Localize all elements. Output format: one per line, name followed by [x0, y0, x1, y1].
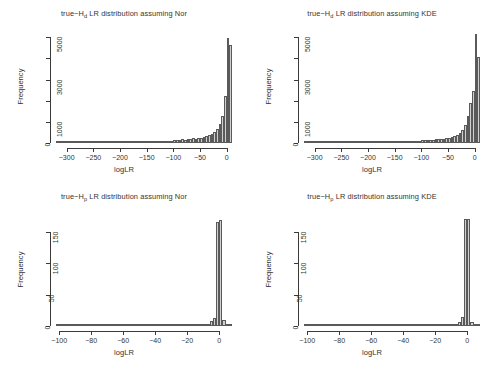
y-axis-tick-label: 0: [44, 326, 51, 330]
x-axis-tick-label: 0: [452, 337, 482, 344]
x-axis-tick: [315, 148, 316, 152]
x-axis-tick-label: −20: [172, 337, 202, 344]
x-axis-tick: [467, 331, 468, 335]
y-axis-tick-label: 50: [48, 294, 55, 302]
y-axis-line: [298, 37, 299, 143]
x-axis-tick-label: −50: [433, 154, 463, 161]
panel-title: true−Hp LR distribution assuming Nor: [0, 192, 248, 201]
y-axis-tick-label: 100: [300, 263, 307, 275]
y-axis-tick: [294, 122, 298, 123]
x-axis-tick: [403, 331, 404, 335]
y-axis-tick: [294, 232, 298, 233]
x-axis-tick-label: −100: [44, 337, 74, 344]
panel-true-hd-kde: true−Hd LR distribution assuming KDE 010…: [248, 0, 496, 182]
y-axis-tick-label: 3000: [304, 79, 311, 95]
x-axis-tick: [120, 148, 121, 152]
x-axis-tick-label: 0: [204, 337, 234, 344]
y-axis-title: Frequency: [264, 225, 273, 315]
x-axis-tick-label: −100: [292, 337, 322, 344]
x-axis-tick-label: 0: [460, 154, 490, 161]
histogram-bar: [229, 45, 232, 143]
histogram-bar: [477, 57, 480, 143]
x-axis-tick-label: −300: [52, 154, 82, 161]
panel-title-suffix: LR distribution assuming KDE: [334, 9, 437, 18]
x-axis-tick: [219, 331, 220, 335]
x-axis-tick: [435, 331, 436, 335]
x-axis-tick-label: 0: [212, 154, 242, 161]
x-axis-tick: [341, 148, 342, 152]
y-axis-tick: [46, 122, 50, 123]
histogram-bar: [219, 220, 222, 326]
y-axis-tick-label: 150: [300, 231, 307, 243]
y-axis-title: Frequency: [16, 42, 25, 132]
x-axis-tick: [123, 331, 124, 335]
y-axis-tick: [294, 80, 298, 81]
x-axis-tick: [59, 331, 60, 335]
histogram-figure: true−Hd LR distribution assuming Nor 010…: [0, 0, 496, 365]
y-axis-line: [50, 232, 51, 326]
x-axis-title: logLR: [0, 165, 248, 174]
x-axis-tick: [339, 331, 340, 335]
y-axis-tick-label: 150: [52, 231, 59, 243]
x-axis-tick-label: −150: [132, 154, 162, 161]
plot-area: [56, 33, 232, 143]
histogram-bars: [304, 216, 480, 326]
x-axis-tick: [448, 148, 449, 152]
y-axis-tick: [294, 101, 298, 102]
x-axis-title: logLR: [248, 348, 496, 357]
x-axis-tick: [227, 148, 228, 152]
x-axis-tick: [67, 148, 68, 152]
x-axis-tick: [371, 331, 372, 335]
panel-title-suffix: LR distribution assuming Nor: [87, 9, 187, 18]
panel-true-hp-kde: true−Hp LR distribution assuming KDE 050…: [248, 183, 496, 365]
x-axis-line: [307, 331, 467, 332]
y-axis-line: [298, 232, 299, 326]
panel-title-prefix: true−H: [307, 192, 330, 201]
plot-area: [56, 216, 232, 326]
y-axis-tick-label: 3000: [56, 79, 63, 95]
y-axis-tick-label: 0: [292, 143, 299, 147]
panel-title-subscript: p: [84, 196, 87, 202]
x-axis-tick-label: −100: [406, 154, 436, 161]
x-axis-tick-label: −250: [78, 154, 108, 161]
x-axis-tick-label: −200: [353, 154, 383, 161]
x-axis-tick-label: −80: [76, 337, 106, 344]
x-axis-tick: [173, 148, 174, 152]
y-axis-tick-label: 5000: [56, 37, 63, 53]
y-axis-tick: [46, 263, 50, 264]
x-axis-tick-label: −250: [326, 154, 356, 161]
x-axis-tick: [475, 148, 476, 152]
panel-true-hd-nor: true−Hd LR distribution assuming Nor 010…: [0, 0, 248, 182]
histogram-bar: [477, 324, 480, 326]
x-axis-tick: [187, 331, 188, 335]
panel-title-prefix: true−H: [307, 9, 330, 18]
y-axis-tick-label: 50: [296, 294, 303, 302]
panel-title-prefix: true−H: [61, 9, 84, 18]
x-axis-tick: [147, 148, 148, 152]
x-axis-tick-label: −300: [300, 154, 330, 161]
y-axis-tick-label: 5000: [304, 37, 311, 53]
panel-title: true−Hd LR distribution assuming KDE: [248, 9, 496, 18]
x-axis-tick: [93, 148, 94, 152]
histogram-bar: [229, 324, 232, 326]
x-axis-tick-label: −40: [388, 337, 418, 344]
x-axis-tick: [200, 148, 201, 152]
y-axis-line: [50, 37, 51, 143]
y-axis-title: Frequency: [264, 42, 273, 132]
x-axis-tick: [91, 331, 92, 335]
y-axis-tick-label: 1000: [56, 121, 63, 137]
x-axis-tick-label: −150: [380, 154, 410, 161]
x-axis-tick-label: −100: [158, 154, 188, 161]
y-axis-tick: [294, 58, 298, 59]
y-axis-tick: [46, 37, 50, 38]
panel-title-suffix: LR distribution assuming KDE: [334, 192, 437, 201]
y-axis-tick: [294, 37, 298, 38]
x-axis-tick-label: −20: [420, 337, 450, 344]
y-axis-tick: [46, 80, 50, 81]
y-axis-tick-label: 1000: [304, 121, 311, 137]
x-axis-tick-label: −60: [356, 337, 386, 344]
x-axis-tick: [395, 148, 396, 152]
histogram-bar: [467, 219, 470, 326]
y-axis-title: Frequency: [16, 225, 25, 315]
y-axis-tick: [294, 263, 298, 264]
